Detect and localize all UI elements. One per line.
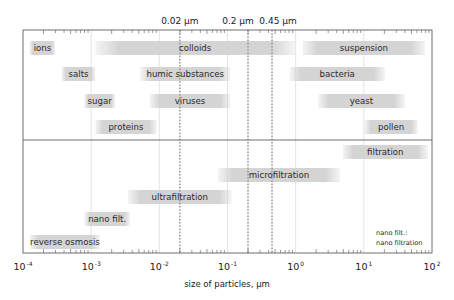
bar-label: ultrafiltration — [152, 192, 208, 202]
bar-label: sugar — [88, 96, 113, 106]
bar-label: ions — [34, 43, 52, 53]
tick-exponent: -3 — [95, 260, 101, 267]
bar-label: proteins — [108, 122, 144, 132]
annotation-line-2: nano filtration — [376, 239, 422, 247]
x-axis-title: size of particles, µm — [184, 279, 270, 289]
x-tick-label: 10-2 — [150, 260, 169, 272]
bar-label: pollen — [378, 122, 404, 132]
bar-label: humic substances — [146, 69, 224, 79]
bar-label: reverse osmosis — [30, 237, 100, 247]
bar-label: nano filt. — [88, 214, 126, 224]
reference-line-label: 0.02 µm — [161, 16, 198, 26]
tick-base: 10 — [150, 261, 162, 272]
x-tick-label: 10-3 — [82, 260, 101, 272]
bar-label: viruses — [175, 96, 206, 106]
x-tick-label: 10-4 — [13, 260, 32, 272]
bar-label: microfiltration — [249, 170, 310, 180]
annotation-line-1: nano filt.: — [376, 229, 407, 237]
tick-exponent: 1 — [368, 260, 372, 267]
tick-base: 10 — [218, 261, 230, 272]
particle-size-chart: 0.02 µm0.2 µm0.45 µm ionscolloidssuspens… — [0, 0, 454, 300]
tick-exponent: -4 — [27, 260, 33, 267]
tick-base: 10 — [355, 261, 367, 272]
bar-label: bacteria — [320, 69, 355, 79]
grid-lines — [91, 30, 364, 253]
tick-exponent: -2 — [163, 260, 169, 267]
tick-base: 10 — [82, 261, 94, 272]
x-tick-label: 101 — [355, 260, 372, 272]
x-axis-labels: 10-410-310-210-1100101102 — [13, 260, 440, 272]
x-tick-label: 102 — [424, 260, 441, 272]
bar-label: salts — [69, 69, 90, 79]
bar-label: yeast — [350, 96, 374, 106]
reference-line-label: 0.45 µm — [259, 16, 296, 26]
x-tick-label: 10-1 — [218, 260, 237, 272]
bar-label: colloids — [179, 43, 212, 53]
tick-exponent: -1 — [231, 260, 237, 267]
tick-exponent: 0 — [300, 260, 304, 267]
tick-base: 10 — [13, 261, 25, 272]
tick-base: 10 — [424, 261, 436, 272]
x-tick-label: 100 — [287, 260, 304, 272]
tick-base: 10 — [287, 261, 299, 272]
reference-line-label: 0.2 µm — [222, 16, 254, 26]
bar-label: suspension — [340, 43, 388, 53]
tick-exponent: 2 — [437, 260, 441, 267]
bar-label: filtration — [367, 147, 403, 157]
